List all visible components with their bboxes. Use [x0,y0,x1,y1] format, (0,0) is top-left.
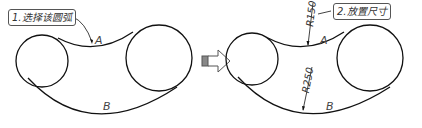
left-small-circle [16,35,68,87]
right-arc-b-label: B [326,100,334,113]
left-leader [73,17,92,42]
left-callout: 1.选择该圆弧 [8,9,76,26]
left-large-circle [126,25,192,91]
right-large-circle [337,25,403,91]
right-arc-b [238,77,390,114]
right-callout: 2.放置尺寸 [333,3,391,20]
right-arc-a-label: A [320,34,328,47]
right-small-circle [226,33,278,85]
left-arc-b-label: B [103,100,111,113]
right-leader [318,11,331,14]
right-arc-a [268,32,344,47]
left-arc-a-label: A [95,34,103,47]
